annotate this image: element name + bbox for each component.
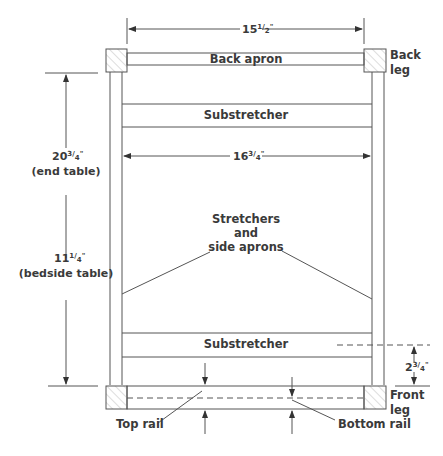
svg-text:151/2": 151/2" <box>242 23 273 36</box>
height-dimension <box>45 73 98 386</box>
bottom-rail-label: Bottom rail <box>338 417 411 431</box>
outer-width-value: 151/2" <box>242 23 273 36</box>
back-leg-label-line2: leg <box>390 63 410 77</box>
svg-text:23/4": 23/4" <box>405 361 429 374</box>
front-leg-label-line1: Front <box>390 388 425 402</box>
svg-text:203/4": 203/4" <box>52 150 83 163</box>
back-leg-label-line1: Back <box>390 48 421 62</box>
stretchers-label-line1: Stretchers <box>212 212 280 226</box>
front-leg-left <box>106 386 127 409</box>
left-side-apron <box>110 72 122 385</box>
stretchers-label-line2: and <box>234 226 258 240</box>
substretcher-bottom-label: Substretcher <box>204 337 289 351</box>
top-rail-label: Top rail <box>116 417 164 431</box>
stretcher-leader-right <box>282 251 372 299</box>
inner-width-value: 163/4" <box>233 150 264 163</box>
right-side-apron <box>372 72 384 385</box>
end-table-height-value: 203/4" (end table) <box>32 150 101 178</box>
stretcher-leader-left <box>122 252 210 294</box>
back-leg-right <box>364 49 386 72</box>
front-leg-label-line2: leg <box>390 403 410 417</box>
svg-text:(bedside table): (bedside table) <box>19 267 114 280</box>
substretcher-top-label: Substretcher <box>204 108 289 122</box>
back-leg-left <box>106 49 127 72</box>
svg-text:111/4": 111/4" <box>54 252 85 265</box>
substretcher-offset-value: 23/4" <box>405 361 429 374</box>
table-frame-diagram: Back apron Back leg Substretcher Substre… <box>0 0 443 456</box>
svg-text:163/4": 163/4" <box>233 150 264 163</box>
svg-text:(end table): (end table) <box>32 165 101 178</box>
bedside-table-height-value: 111/4" (bedside table) <box>19 252 114 280</box>
stretchers-label-line3: side aprons <box>208 240 284 254</box>
front-leg-right <box>364 386 386 409</box>
back-apron-label: Back apron <box>210 52 283 66</box>
